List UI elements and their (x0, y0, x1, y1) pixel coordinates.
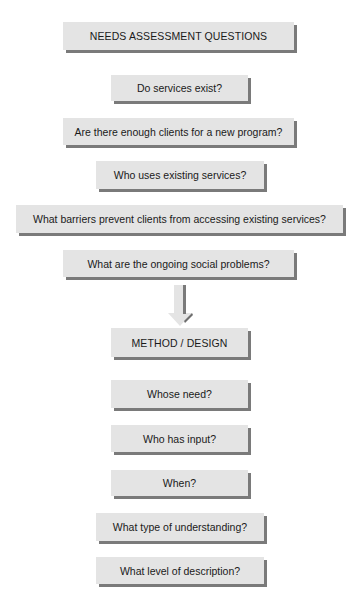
method-text: Who has input? (143, 433, 216, 445)
question-box: What barriers prevent clients from acces… (16, 205, 343, 233)
question-text: What barriers prevent clients from acces… (33, 213, 326, 225)
method-text: When? (163, 477, 196, 489)
method-box: What level of description? (96, 557, 264, 584)
needs-assessment-header: NEEDS ASSESSMENT QUESTIONS (63, 22, 294, 50)
down-arrow-icon (166, 285, 194, 327)
method-text: What level of description? (120, 565, 240, 577)
method-text: Whose need? (147, 388, 212, 400)
question-box: What are the ongoing social problems? (63, 250, 294, 277)
method-box: What type of understanding? (96, 513, 264, 541)
question-text: What are the ongoing social problems? (87, 258, 269, 270)
method-box: Who has input? (111, 425, 248, 452)
method-box: Whose need? (111, 380, 248, 408)
method-design-header: METHOD / DESIGN (111, 328, 248, 357)
method-text: What type of understanding? (113, 521, 247, 533)
method-design-title: METHOD / DESIGN (131, 337, 227, 349)
question-box: Do services exist? (111, 75, 248, 101)
question-box: Who uses existing services? (96, 161, 264, 189)
needs-assessment-title: NEEDS ASSESSMENT QUESTIONS (90, 30, 267, 42)
question-box: Are there enough clients for a new progr… (63, 118, 294, 145)
question-text: Who uses existing services? (114, 169, 246, 181)
question-text: Are there enough clients for a new progr… (75, 126, 283, 138)
method-box: When? (111, 470, 248, 496)
question-text: Do services exist? (137, 82, 222, 94)
